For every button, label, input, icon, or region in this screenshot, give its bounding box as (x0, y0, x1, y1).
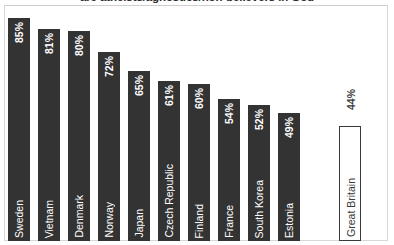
bar-vietnam[interactable]: 81%Vietnam (38, 29, 60, 241)
bar-estonia[interactable]: 49%Estonia (278, 113, 300, 241)
bar-value-label: 72% (98, 56, 120, 90)
bar-value-label: 54% (218, 103, 240, 137)
bar-category-label: Great Britain (340, 178, 362, 237)
bar-great-britain[interactable]: 44%Great Britain (339, 126, 361, 241)
bar-category-label: Sweden (8, 200, 30, 238)
bar-category-label: Denmark (68, 195, 90, 238)
bar-category-label: Japan (128, 209, 150, 238)
bar-category-label: Norway (98, 202, 120, 238)
chart-title: are atheists/agnostics/non-believers in … (0, 0, 394, 4)
bar-czech-republic[interactable]: 61%Czech Republic (158, 81, 180, 241)
bar-chart: are atheists/agnostics/non-believers in … (0, 0, 394, 245)
bar-japan[interactable]: 65%Japan (128, 71, 150, 241)
bar-sweden[interactable]: 85%Sweden (8, 18, 30, 241)
bar-denmark[interactable]: 80%Denmark (68, 31, 90, 241)
bar-france[interactable]: 54%France (218, 99, 240, 241)
bar-norway[interactable]: 72%Norway (98, 52, 120, 241)
bar-category-label: Finland (188, 204, 210, 238)
bar-value-label: 52% (248, 109, 270, 143)
bar-value-label: 65% (128, 75, 150, 109)
plot-area: 85%Sweden81%Vietnam80%Denmark72%Norway65… (4, 5, 388, 241)
bar-value-label: 80% (68, 35, 90, 69)
bar-category-label: Vietnam (38, 200, 60, 238)
bar-category-label: Estonia (278, 203, 300, 238)
bar-value-label: 81% (38, 33, 60, 67)
bar-value-label: 85% (8, 22, 30, 56)
bar-south-korea[interactable]: 52%South Korea (248, 105, 270, 241)
bar-value-label: 61% (158, 85, 180, 119)
bar-category-label: Czech Republic (158, 164, 180, 238)
bar-value-label: 49% (278, 117, 300, 151)
bar-category-label: South Korea (248, 180, 270, 238)
bar-value-label: 60% (188, 88, 210, 122)
bar-category-label: France (218, 205, 240, 238)
bar-value-label: 44% (340, 89, 362, 123)
bar-finland[interactable]: 60%Finland (188, 84, 210, 241)
